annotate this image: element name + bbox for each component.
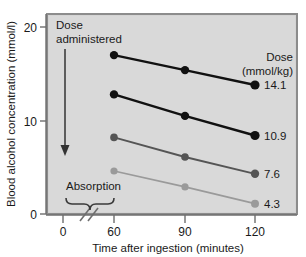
x-tick-label-0: 0 bbox=[60, 225, 67, 239]
dose-administered-label-line1: Dose bbox=[56, 19, 83, 31]
blood-alcohol-line-chart: 20 10 0 Blood alcohol concentration (mmo… bbox=[0, 0, 306, 257]
data-point bbox=[181, 153, 189, 161]
x-tick-label-120: 120 bbox=[245, 225, 265, 239]
data-point bbox=[251, 200, 259, 208]
data-point bbox=[110, 134, 118, 142]
x-tick-label-90: 90 bbox=[178, 225, 192, 239]
legend-label-10-9: 10.9 bbox=[264, 130, 286, 142]
absorption-label: Absorption bbox=[66, 180, 121, 192]
chart-figure: 20 10 0 Blood alcohol concentration (mmo… bbox=[0, 0, 306, 257]
dose-administered-label-line2: administered bbox=[56, 33, 122, 45]
legend-label-14-1: 14.1 bbox=[264, 79, 286, 91]
data-point bbox=[181, 66, 189, 74]
data-point bbox=[110, 90, 118, 98]
x-tick-label-60: 60 bbox=[107, 225, 121, 239]
legend-title-line2: (mmol/kg) bbox=[242, 65, 293, 77]
legend-label-7-6: 7.6 bbox=[264, 168, 280, 180]
data-point bbox=[110, 167, 117, 174]
legend-label-4-3: 4.3 bbox=[264, 198, 280, 210]
data-point bbox=[250, 80, 259, 89]
x-axis-title: Time after ingestion (minutes) bbox=[92, 242, 244, 254]
legend-title-line1: Dose bbox=[266, 51, 293, 63]
data-point bbox=[250, 131, 259, 140]
data-point bbox=[110, 51, 118, 59]
data-point bbox=[181, 112, 189, 120]
y-tick-label-20: 20 bbox=[24, 21, 38, 35]
y-tick-label-0: 0 bbox=[30, 208, 37, 222]
data-point bbox=[181, 183, 188, 190]
data-point bbox=[251, 170, 259, 178]
y-tick-label-10: 10 bbox=[24, 115, 38, 129]
y-axis-title: Blood alcohol concentration (mmol/l) bbox=[5, 21, 17, 207]
